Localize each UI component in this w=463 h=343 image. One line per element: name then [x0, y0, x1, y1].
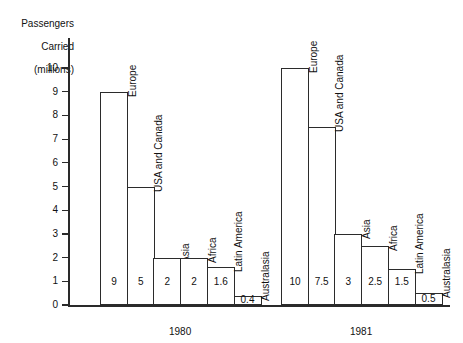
y-axis-line	[68, 38, 70, 306]
bar-value-1981-latin-america: 1.5	[388, 277, 416, 287]
y-tick-label-7: 7	[36, 134, 58, 144]
bar-value-1981-usa-and-canada: 7.5	[308, 277, 336, 287]
bar-value-1980-usa-and-canada: 5	[127, 277, 155, 287]
y-tick-0	[62, 304, 69, 305]
y-tick-label-2: 2	[36, 253, 58, 263]
bar-label-1981-australasia: Australasia	[442, 249, 452, 298]
y-tick-label-5: 5	[36, 182, 58, 192]
y-tick-4	[62, 210, 69, 211]
bar-value-1980-asia: 2	[153, 277, 181, 287]
bar-label-1980-usa-and-canada: USA and Canada	[154, 114, 164, 191]
y-tick-8	[62, 115, 69, 116]
y-tick-7	[62, 139, 69, 140]
y-tick-5	[62, 186, 69, 187]
y-tick-label-3: 3	[36, 229, 58, 239]
bar-label-1980-australasia: Australasia	[261, 251, 271, 300]
bar-value-1980-europe: 9	[100, 277, 128, 287]
bar-label-1981-usa-and-canada: USA and Canada	[335, 55, 345, 132]
y-tick-6	[62, 162, 69, 163]
bar-1981-latin-america[interactable]	[388, 269, 416, 305]
bar-1980-europe[interactable]	[100, 92, 128, 305]
group-label-1981: 1981	[321, 327, 401, 337]
y-tick-10	[62, 67, 69, 68]
bar-value-1981-asia: 3	[334, 277, 362, 287]
bar-value-1981-africa: 2.5	[361, 277, 389, 287]
bar-value-1980-africa: 2	[180, 277, 208, 287]
bar-1981-asia[interactable]	[334, 234, 362, 305]
group-label-1980: 1980	[140, 327, 220, 337]
bar-value-1981-australasia: 0.5	[415, 294, 443, 304]
y-axis-title-line-1: Passengers	[21, 18, 74, 29]
y-tick-2	[62, 257, 69, 258]
y-tick-label-8: 8	[36, 110, 58, 120]
bar-label-1980-europe: Europe	[128, 64, 138, 96]
y-tick-3	[62, 233, 69, 234]
y-tick-label-10: 10	[36, 63, 58, 73]
y-tick-9	[62, 91, 69, 92]
y-tick-label-9: 9	[36, 87, 58, 97]
bar-label-1981-africa: Africa	[389, 225, 399, 251]
bar-label-1980-africa: Africa	[208, 237, 218, 263]
y-tick-label-4: 4	[36, 205, 58, 215]
y-tick-label-6: 6	[36, 158, 58, 168]
bar-label-1981-latin-america: Latin America	[415, 214, 425, 275]
bar-value-1980-australasia: 0.4	[234, 295, 262, 305]
bar-1981-europe[interactable]	[281, 68, 309, 305]
bar-chart: Passengers Carried (millions) 1098765432…	[0, 0, 463, 343]
bar-1980-usa-and-canada[interactable]	[127, 187, 155, 306]
y-tick-1	[62, 281, 69, 282]
bar-label-1981-europe: Europe	[309, 41, 319, 73]
y-tick-label-1: 1	[36, 276, 58, 286]
bar-value-1981-europe: 10	[281, 277, 309, 287]
bar-label-1981-asia: Asia	[362, 219, 372, 238]
y-tick-label-0: 0	[36, 300, 58, 310]
bar-label-1980-latin-america: Latin America	[234, 211, 244, 272]
bar-value-1980-latin-america: 1.6	[207, 277, 235, 287]
